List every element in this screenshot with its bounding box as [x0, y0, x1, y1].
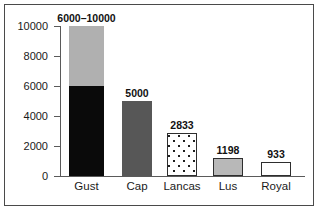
- bar-gust-lower-segment: [69, 86, 104, 176]
- x-axis-label-royal: Royal: [249, 180, 303, 193]
- x-axis-label-gust: Gust: [62, 180, 111, 193]
- y-tick-mark-10000: [54, 26, 60, 27]
- y-tick-label-8000: 8000: [2, 51, 48, 61]
- value-label-lancas: 2833: [157, 120, 207, 131]
- value-label-lus: 1198: [203, 145, 253, 156]
- bar-gust-upper-segment: [69, 26, 104, 86]
- plot-area: 0 2000 4000 6000 8000 10000 6000–10000 5…: [0, 0, 319, 215]
- y-tick-mark-0: [54, 176, 60, 177]
- y-tick-label-2000: 2000: [2, 141, 48, 151]
- y-tick-mark-8000: [54, 56, 60, 57]
- chart-figure: 0 2000 4000 6000 8000 10000 6000–10000 5…: [0, 0, 319, 215]
- value-label-cap: 5000: [112, 88, 162, 99]
- y-tick-label-6000: 6000: [2, 81, 48, 91]
- y-tick-mark-4000: [54, 116, 60, 117]
- y-tick-mark-6000: [54, 86, 60, 87]
- bar-royal: [261, 162, 291, 176]
- y-tick-label-10000: 10000: [2, 21, 48, 31]
- y-tick-mark-2000: [54, 146, 60, 147]
- value-label-gust: 6000–10000: [48, 13, 125, 24]
- x-axis-line: [60, 176, 305, 177]
- bar-lancas: [167, 133, 197, 176]
- x-axis-label-lus: Lus: [203, 180, 253, 193]
- bar-lus: [213, 158, 243, 176]
- y-axis-line: [60, 26, 61, 176]
- bar-gust: [69, 26, 104, 176]
- y-tick-label-0: 0: [2, 171, 48, 181]
- y-tick-label-4000: 4000: [2, 111, 48, 121]
- value-label-royal: 933: [251, 149, 301, 160]
- bar-cap: [122, 101, 152, 176]
